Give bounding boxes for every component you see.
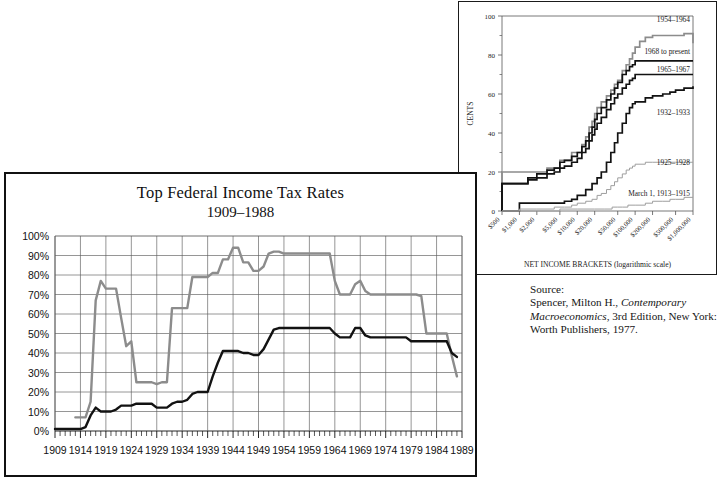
inset-x-tick-label: $500 <box>486 215 501 230</box>
source-line2-post: , 3rd Edition, New <box>607 310 690 322</box>
y-tick-label: 0% <box>34 425 49 437</box>
x-tick-label: 1934 <box>171 444 195 456</box>
inset-annotation-label: 1932–1933 <box>657 108 691 117</box>
main-chart-svg: 0%10%20%30%40%50%60%70%80%90%100%1909191… <box>6 174 474 474</box>
x-tick-label: 1969 <box>349 444 373 456</box>
y-tick-label: 60% <box>28 308 49 320</box>
y-tick-label: 20% <box>28 386 49 398</box>
x-tick-label: 1974 <box>374 444 398 456</box>
inset-chart-svg: 020406080100CENTS$500$1,000$2,000$5,000$… <box>459 2 715 273</box>
y-tick-label: 30% <box>28 367 49 379</box>
x-tick-label: 1909 <box>43 444 67 456</box>
x-tick-label: 1964 <box>323 444 347 456</box>
inset-y-tick-label: 20 <box>488 169 496 177</box>
inset-y-tick-label: 40 <box>488 130 496 138</box>
y-tick-label: 50% <box>28 328 49 340</box>
x-tick-label: 1984 <box>425 444 449 456</box>
source-line1-pre: Spencer, Milton H., <box>530 296 621 308</box>
x-tick-label: 1924 <box>120 444 144 456</box>
inset-y-tick-label: 80 <box>488 52 496 60</box>
inset-annotation-label: 1954–1964 <box>657 15 691 24</box>
x-tick-label: 1949 <box>247 444 271 456</box>
source-heading: Source: <box>530 283 718 296</box>
inset-chart-panel: 020406080100CENTS$500$1,000$2,000$5,000$… <box>458 1 717 275</box>
source-citation: Spencer, Milton H., Contemporary Macroec… <box>530 296 718 336</box>
x-tick-label: 1919 <box>94 444 118 456</box>
y-tick-label: 100% <box>22 230 49 242</box>
y-tick-label: 10% <box>28 406 49 418</box>
source-note: Source: Spencer, Milton H., Contemporary… <box>530 283 718 337</box>
x-tick-label: 1929 <box>145 444 169 456</box>
y-tick-label: 70% <box>28 289 49 301</box>
main-chart-panel: Top Federal Income Tax Rates 1909–1988 0… <box>4 172 477 477</box>
inset-annotation-label: 1925–1928 <box>657 158 691 167</box>
y-tick-label: 80% <box>28 269 49 281</box>
y-tick-label: 40% <box>28 347 49 359</box>
main-chart-series-2 <box>55 328 457 429</box>
inset-annotation-label: 1968 to present <box>644 47 691 56</box>
inset-x-tick-label: $1,000 <box>500 215 518 233</box>
x-tick-label: 1939 <box>196 444 220 456</box>
inset-annotation-label: 1965–1967 <box>657 65 691 74</box>
x-tick-label: 1989 <box>450 444 474 456</box>
inset-x-tick-label: $200,000 <box>629 215 652 238</box>
y-tick-label: 90% <box>28 250 49 262</box>
source-line2-italic: Macroeconomics <box>530 310 607 322</box>
x-tick-label: 1944 <box>221 444 245 456</box>
x-tick-label: 1914 <box>69 444 93 456</box>
inset-annotation-label: March 1, 1913–1915 <box>628 189 690 198</box>
x-tick-label: 1959 <box>298 444 322 456</box>
inset-y-tick-label: 0 <box>492 208 496 216</box>
inset-y-tick-label: 60 <box>488 91 496 99</box>
inset-x-tick-label: $10,000 <box>556 215 577 236</box>
x-tick-label: 1979 <box>399 444 423 456</box>
inset-y-axis-title: CENTS <box>466 102 475 126</box>
source-line1-italic: Contemporary <box>621 296 686 308</box>
inset-x-tick-label: $2,000 <box>518 215 536 233</box>
x-tick-label: 1954 <box>272 444 296 456</box>
inset-x-tick-label: $20,000 <box>573 215 594 236</box>
inset-y-tick-label: 100 <box>485 13 496 21</box>
inset-x-axis-title: NET INCOME BRACKETS (logarithmic scale) <box>524 260 672 269</box>
